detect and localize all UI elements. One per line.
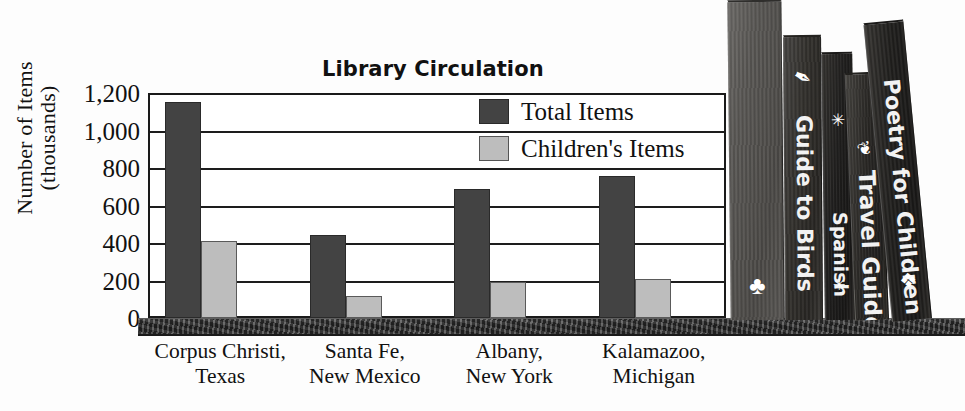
star-ornament-lower-icon: ✳	[833, 276, 846, 294]
y-axis-tick-labels: 1,2001,0008006004002000	[44, 93, 140, 318]
gridline-800	[150, 168, 724, 170]
x-axis-label-2-line-1: Albany,	[437, 339, 582, 364]
wheat-ornament-icon: ❦	[855, 138, 875, 160]
feather-ornament-icon: ✒	[789, 64, 815, 92]
y-axis-tick-label-600: 600	[48, 193, 140, 218]
x-axis-label-0-line-2: Texas	[148, 364, 293, 389]
legend-item-total-items: Total Items	[479, 97, 685, 125]
x-axis-label-3-line-2: Michigan	[582, 364, 727, 389]
book-spine-title-birds: Guide to Birds	[793, 115, 816, 292]
star-ornament-icon: ✳	[830, 112, 844, 129]
chart-legend: Total Items Children's Items	[479, 97, 685, 162]
x-axis-label-1-line-1: Santa Fe,	[293, 339, 438, 364]
y-axis-tick-label-800: 800	[48, 156, 140, 181]
decorative-books-group: History of the World ♣ Guide to Birds ✒ …	[726, 0, 965, 320]
y-axis-title-line-1: Number of Items	[14, 61, 37, 214]
library-circulation-chart-figure: Number of Items (thousands) 1,2001,00080…	[0, 0, 965, 411]
x-axis-label-0: Corpus Christi,Texas	[148, 339, 293, 389]
x-axis-label-3-line-1: Kalamazoo,	[582, 339, 727, 364]
x-axis-label-2: Albany,New York	[437, 339, 582, 389]
gridline-400	[150, 243, 724, 245]
y-axis-tick-label-1200: 1,200	[48, 81, 140, 106]
diamond-ornament-icon: ❖	[898, 269, 918, 291]
legend-label-childrens-items: Children's Items	[521, 136, 685, 161]
dark-gray-swatch-icon	[479, 99, 509, 124]
y-axis-tick-label-0: 0	[48, 306, 140, 331]
x-axis-label-2-line-2: New York	[437, 364, 582, 389]
book-guide-to-birds: Guide to Birds ✒	[783, 35, 823, 320]
gridline-200	[150, 281, 724, 283]
x-axis-label-0-line-1: Corpus Christi,	[148, 339, 293, 364]
bookshelf-ledge	[138, 318, 965, 336]
x-axis-label-3: Kalamazoo,Michigan	[582, 339, 727, 389]
chart-title: Library Circulation	[322, 57, 544, 81]
book-history-of-the-world: History of the World ♣	[727, 0, 784, 320]
x-axis-category-labels: Corpus Christi,TexasSanta Fe,New MexicoA…	[148, 339, 726, 401]
legend-label-total-items: Total Items	[521, 99, 634, 124]
gridline-600	[150, 206, 724, 208]
legend-item-childrens-items: Children's Items	[479, 134, 685, 162]
y-axis-tick-label-200: 200	[48, 268, 140, 293]
y-axis-tick-label-400: 400	[48, 231, 140, 256]
y-axis-tick-label-1000: 1,000	[48, 118, 140, 143]
x-axis-label-1: Santa Fe,New Mexico	[293, 339, 438, 389]
light-gray-swatch-icon	[479, 136, 509, 161]
x-axis-label-1-line-2: New Mexico	[293, 364, 438, 389]
club-ornament-icon: ♣	[749, 273, 766, 298]
